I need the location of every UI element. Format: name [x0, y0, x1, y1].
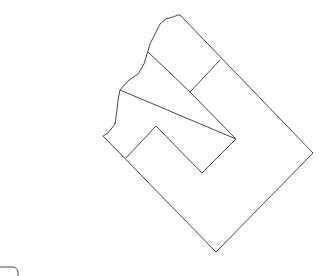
lower-lot-line	[126, 126, 156, 158]
outer-boundary	[103, 15, 313, 252]
corner-fragment	[0, 267, 18, 276]
upper-lot-line	[148, 52, 220, 92]
parcel-diagram	[0, 0, 326, 276]
upper-inner-line	[190, 92, 236, 139]
inner-block	[120, 90, 236, 173]
